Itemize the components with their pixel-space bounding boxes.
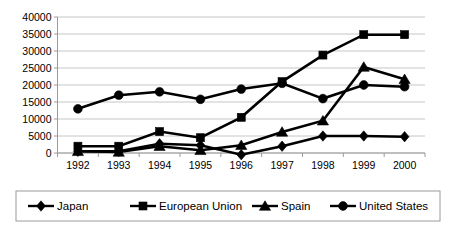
y-axis-tick-label: 0 xyxy=(46,147,52,159)
marker-square xyxy=(319,51,327,59)
legend-entry-label: Spain xyxy=(281,200,310,212)
marker-diamond xyxy=(400,131,409,141)
marker-circle xyxy=(155,87,164,96)
marker-diamond xyxy=(359,131,368,141)
x-axis-tick-label: 1992 xyxy=(66,159,90,171)
x-axis-tick-label: 1993 xyxy=(107,159,131,171)
y-axis-tick-label: 40000 xyxy=(22,11,51,23)
marker-circle xyxy=(400,82,409,91)
y-axis-tick-label: 15000 xyxy=(22,96,51,108)
marker-diamond xyxy=(318,131,327,141)
series-united-states xyxy=(74,79,409,113)
marker-circle xyxy=(74,104,83,113)
marker-circle xyxy=(339,202,348,211)
y-axis-tick-label: 30000 xyxy=(22,45,51,57)
marker-square xyxy=(196,134,204,142)
marker-circle xyxy=(196,95,205,104)
marker-square xyxy=(156,128,164,136)
marker-circle xyxy=(114,91,123,100)
marker-circle xyxy=(319,94,328,103)
line-chart: 0500010000150002000025000300003500040000… xyxy=(0,0,456,230)
y-axis-tick-label: 10000 xyxy=(22,113,51,125)
x-axis-tick-label: 1999 xyxy=(352,159,376,171)
series-line xyxy=(78,67,405,152)
marker-diamond xyxy=(278,141,287,151)
x-axis-tick-label: 1994 xyxy=(148,159,172,171)
legend-entry-label: Japan xyxy=(57,200,88,212)
x-axis-tick-label: 1996 xyxy=(230,159,254,171)
x-axis-tick-label: 1995 xyxy=(189,159,213,171)
chart-legend: JapanEuropean UnionSpainUnited States xyxy=(16,191,440,221)
marker-square xyxy=(237,113,245,121)
y-axis-tick-label: 25000 xyxy=(22,62,51,74)
x-axis-tick-label: 1998 xyxy=(311,159,335,171)
y-axis-tick-label: 20000 xyxy=(22,79,51,91)
marker-square xyxy=(139,202,147,210)
chart-canvas: 0500010000150002000025000300003500040000… xyxy=(0,0,456,230)
marker-triangle xyxy=(358,62,369,71)
legend-entry-label: European Union xyxy=(159,200,242,212)
marker-square xyxy=(360,31,368,39)
marker-circle xyxy=(237,85,246,94)
legend-entry-label: United States xyxy=(359,200,428,212)
y-axis-tick-label: 35000 xyxy=(22,28,51,40)
x-axis-tick-label: 1997 xyxy=(270,159,294,171)
marker-circle xyxy=(278,79,287,88)
marker-square xyxy=(401,31,409,39)
y-axis-tick-label: 5000 xyxy=(28,130,52,142)
x-axis-tick-label: 2000 xyxy=(393,159,417,171)
marker-circle xyxy=(359,81,368,90)
